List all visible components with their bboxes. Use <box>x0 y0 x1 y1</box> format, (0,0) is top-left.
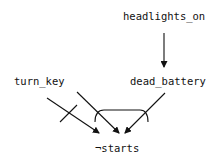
edge-battery-joint <box>125 93 165 133</box>
conjunction-arc <box>95 110 148 122</box>
node-headlights-on: headlights_on <box>123 10 205 22</box>
edge-turnkey-negated <box>47 98 99 133</box>
causal-diagram: headlights_on dead_battery turn_key ¬sta… <box>0 0 221 160</box>
negation-crossbar <box>60 105 77 122</box>
node-turn-key: turn_key <box>14 75 65 87</box>
node-not-starts: ¬starts <box>95 142 139 154</box>
node-dead-battery: dead_battery <box>130 75 206 87</box>
